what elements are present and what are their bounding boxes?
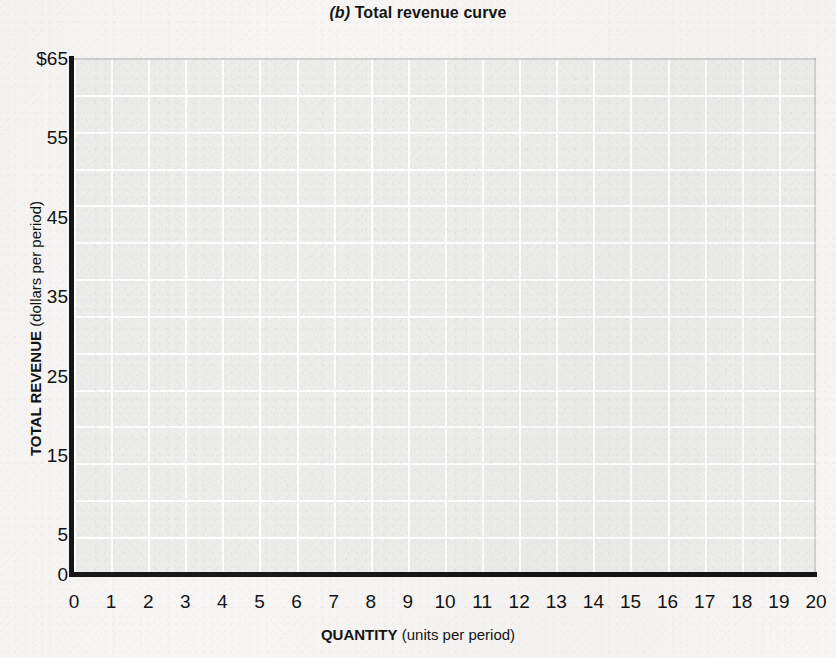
plot-area-wrapper	[74, 58, 816, 574]
x-tick-label: 2	[128, 592, 168, 611]
plot-grid	[74, 58, 816, 574]
x-tick-label: 18	[722, 592, 762, 611]
x-tick-label: 9	[388, 592, 428, 611]
x-axis-title-strong: QUANTITY	[321, 626, 398, 643]
y-tick-label: 0	[4, 565, 68, 584]
x-tick-label: 8	[351, 592, 391, 611]
x-axis-line	[69, 572, 817, 577]
x-tick-label: 11	[462, 592, 502, 611]
chart-title-main: Total revenue curve	[355, 4, 507, 21]
x-tick-label: 13	[536, 592, 576, 611]
x-tick-label: 10	[425, 592, 465, 611]
y-axis-title-paren: (dollars per period)	[27, 201, 44, 327]
x-tick-label: 5	[240, 592, 280, 611]
chart-title: (b) Total revenue curve	[0, 4, 836, 22]
x-tick-label: 14	[573, 592, 613, 611]
panel-letter: (b)	[329, 4, 350, 21]
x-tick-label: 15	[611, 592, 651, 611]
x-tick-label: 16	[648, 592, 688, 611]
x-tick-label: 19	[759, 592, 799, 611]
y-axis-title-strong: TOTAL REVENUE	[27, 331, 44, 456]
y-tick-label: $65	[4, 49, 68, 68]
x-tick-label: 1	[91, 592, 131, 611]
x-axis-tick-labels: 01234567891011121314151617181920	[0, 592, 836, 622]
y-axis-line	[69, 56, 74, 577]
x-axis-title: QUANTITY (units per period)	[0, 626, 836, 643]
x-tick-label: 0	[54, 592, 94, 611]
y-axis-title-space	[27, 327, 44, 331]
x-tick-label: 17	[685, 592, 725, 611]
y-axis-title: TOTAL REVENUE (dollars per period)	[27, 119, 44, 539]
x-tick-label: 3	[165, 592, 205, 611]
x-tick-label: 4	[202, 592, 242, 611]
x-tick-label: 12	[499, 592, 539, 611]
x-tick-label: 6	[277, 592, 317, 611]
x-tick-label: 20	[796, 592, 836, 611]
x-tick-label: 7	[314, 592, 354, 611]
x-axis-title-paren: (units per period)	[402, 626, 515, 643]
